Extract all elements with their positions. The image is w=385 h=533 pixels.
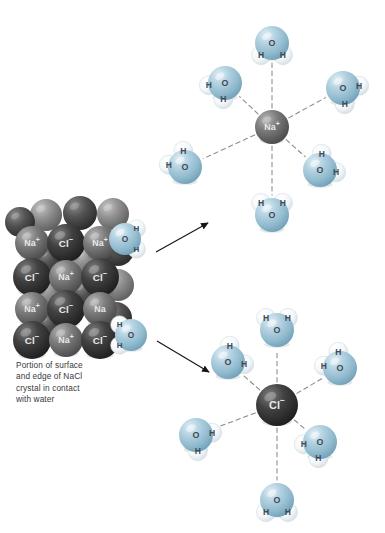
water-molecule: OHH: [199, 66, 242, 109]
hydration-waters: OHHOHHOHHOHHOHHOHHOHHOHHOHHOHHOHHOHH: [159, 26, 368, 522]
crystal-front-layer: Na+Cl−Na+Cl−Na+Cl−Na+Cl−NaCl−Na+Cl−: [13, 224, 119, 359]
caption-line-1: Portion of surface: [16, 360, 136, 371]
ion-hydration-diagram: Na+Cl−Na+Cl−Na+Cl−Na+Cl−NaCl−Na+Cl− OHHO…: [0, 0, 385, 533]
ion-dipole-bond: [294, 420, 304, 429]
water-molecule: OHH: [326, 71, 369, 114]
arrow-to-chloride-shell: [157, 341, 209, 372]
ion-dipole-bond: [243, 375, 260, 390]
water-molecule: OHH: [257, 308, 298, 347]
water-molecule: OHH: [111, 316, 147, 354]
caption-line-4: with water: [16, 394, 136, 405]
ion-dipole-bond: [289, 98, 326, 118]
water-molecule: OHH: [211, 336, 254, 380]
ion-dipole-bond: [240, 97, 259, 114]
water-molecule: OHH: [303, 144, 346, 188]
ion-dipole-bond: [215, 413, 256, 428]
crystal-caption: Portion of surface and edge of NaCl crys…: [16, 360, 136, 406]
figure-canvas: Na+Cl−Na+Cl−Na+Cl−Na+Cl−NaCl−Na+Cl− OHHO…: [0, 0, 385, 533]
ion-dipole-bond: [286, 140, 305, 157]
caption-line-2: and edge of NaCl: [16, 371, 136, 382]
water-molecule: OHH: [294, 425, 337, 468]
water-molecule: OHH: [252, 193, 293, 232]
caption-line-3: crystal in contact: [16, 383, 136, 394]
water-molecule: OHH: [159, 141, 202, 185]
water-molecule: OHH: [179, 418, 222, 461]
arrow-to-sodium-shell: [156, 223, 208, 252]
water-molecule: OHH: [252, 26, 293, 65]
ion-dipole-bond: [203, 135, 255, 159]
ion-dipole-bond: [297, 378, 323, 393]
process-arrows: [156, 223, 209, 372]
water-molecule: OHH: [257, 483, 298, 522]
